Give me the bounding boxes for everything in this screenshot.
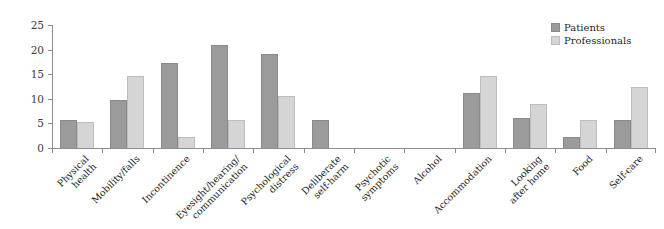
bar-professionals[interactable]	[228, 120, 245, 148]
bar-professionals[interactable]	[480, 76, 497, 148]
bar-professionals[interactable]	[631, 87, 648, 149]
y-axis-ticks: 0510152025	[0, 25, 52, 148]
bar-patients[interactable]	[261, 54, 278, 148]
y-axis-tick-label: 20	[0, 44, 44, 56]
x-axis-labels: Physical healthMobility/fallsIncontinenc…	[52, 153, 656, 229]
legend-item-patients[interactable]: Patients	[551, 21, 631, 34]
bar-chart: 0510152025 Physical healthMobility/falls…	[0, 0, 664, 229]
bar-group	[404, 25, 454, 148]
bar-professionals[interactable]	[530, 104, 547, 148]
patients-swatch-icon	[551, 23, 560, 32]
bar-group	[354, 25, 404, 148]
bar-group	[153, 25, 203, 148]
bar-professionals[interactable]	[580, 120, 597, 148]
bar-professionals[interactable]	[178, 137, 195, 148]
y-axis-tick-label: 10	[0, 93, 44, 105]
bar-group	[203, 25, 253, 148]
x-axis-label: Self-care	[552, 153, 645, 229]
y-axis-tick-label: 25	[0, 19, 44, 31]
bar-professionals[interactable]	[77, 122, 94, 148]
bar-patients[interactable]	[161, 63, 178, 148]
chart-legend: Patients Professionals	[551, 21, 631, 47]
y-axis-tick-label: 15	[0, 68, 44, 80]
bar-patients[interactable]	[211, 45, 228, 148]
bar-patients[interactable]	[110, 100, 127, 148]
bar-group	[455, 25, 505, 148]
legend-label-professionals: Professionals	[564, 35, 631, 46]
bar-professionals[interactable]	[127, 76, 144, 148]
bar-patients[interactable]	[563, 137, 580, 148]
bar-patients[interactable]	[312, 120, 329, 148]
legend-label-patients: Patients	[564, 22, 605, 33]
bar-patients[interactable]	[60, 120, 77, 148]
bar-professionals[interactable]	[278, 96, 295, 148]
y-axis-tick-label: 5	[0, 117, 44, 129]
bar-patients[interactable]	[513, 118, 530, 148]
legend-item-professionals[interactable]: Professionals	[551, 34, 631, 47]
bar-patients[interactable]	[614, 120, 631, 148]
professionals-swatch-icon	[551, 36, 560, 45]
bar-group	[102, 25, 152, 148]
bar-group	[52, 25, 102, 148]
bar-patients[interactable]	[463, 93, 480, 148]
bar-group	[253, 25, 303, 148]
bar-group	[505, 25, 555, 148]
y-axis-tick-label: 0	[0, 142, 44, 154]
bar-group	[304, 25, 354, 148]
